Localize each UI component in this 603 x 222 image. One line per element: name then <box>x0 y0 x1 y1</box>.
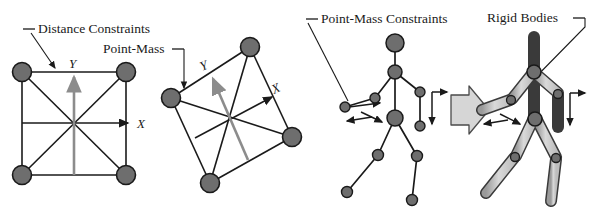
point-mass-node-knee <box>412 151 423 162</box>
motion-arrow <box>347 117 372 121</box>
constraint-edge <box>171 98 210 183</box>
bone-left-shin <box>347 155 378 192</box>
bone-right-shin <box>412 156 417 200</box>
skeleton-bones <box>345 43 420 200</box>
joint-shoulder <box>527 65 541 79</box>
point-mass-node <box>201 174 220 193</box>
point-mass-constraints-leader <box>306 19 348 101</box>
constraint-edge <box>250 47 292 137</box>
point-mass-nodes-panel2 <box>162 38 302 193</box>
motion-arrows-left <box>347 103 382 122</box>
joint-right-knee <box>552 154 561 163</box>
joint-left-knee <box>511 153 520 162</box>
motion-arrow <box>500 114 520 124</box>
point-mass-node-hand <box>340 102 350 112</box>
x-axis-label-panel2: X <box>268 79 283 97</box>
panel-square-rotated: X Y <box>162 38 302 193</box>
point-mass-leader <box>172 49 184 88</box>
x-axis-label-panel1: X <box>136 116 146 131</box>
point-mass-node <box>13 166 32 185</box>
constraint-diagonal <box>171 98 292 137</box>
point-mass-node <box>283 128 302 147</box>
motion-arrow <box>361 112 382 122</box>
label-point-mass-constraints: Point-Mass Constraints <box>321 11 447 26</box>
joint-hip <box>528 112 542 126</box>
point-mass-node-knee <box>373 150 384 161</box>
point-mass-node <box>117 63 136 82</box>
point-mass-node-elbow <box>415 87 425 97</box>
point-mass-node-elbow <box>370 93 380 103</box>
y-axis-arrow-rotated <box>213 79 248 160</box>
point-mass-node <box>117 166 136 185</box>
figure-root: X Y <box>0 0 603 222</box>
y-axis-label-panel2: Y <box>198 57 212 74</box>
diagram-canvas: X Y <box>0 0 603 222</box>
point-mass-node <box>241 38 260 57</box>
motion-arrow <box>484 120 508 124</box>
point-mass-node-hand <box>415 121 425 131</box>
panel-skeleton-rigid <box>482 18 585 201</box>
motion-arrows-left-rigid <box>484 114 520 124</box>
local-frame-axes-panel2 <box>195 79 272 160</box>
point-mass-node-neck <box>388 65 402 79</box>
point-mass-node <box>13 63 32 82</box>
constraint-diagonal <box>210 47 250 183</box>
joint-left-elbow <box>507 96 516 105</box>
label-rigid-bodies: Rigid Bodies <box>487 10 558 25</box>
label-point-mass: Point-Mass <box>103 41 165 56</box>
distance-constraint-edges-rotated <box>171 47 292 183</box>
point-mass-node-foot <box>407 195 418 206</box>
point-mass-node-head <box>386 34 404 52</box>
label-distance-constraints: Distance Constraints <box>38 21 150 36</box>
motion-arrows-right-rigid <box>570 93 585 125</box>
rigid-body-capsules <box>482 37 558 201</box>
point-mass-node <box>162 89 181 108</box>
y-axis-label-panel1: Y <box>69 56 78 71</box>
point-mass-node-hip <box>387 110 403 126</box>
joint-right-elbow <box>554 90 563 99</box>
constraint-edge <box>171 47 250 98</box>
panel-skeleton-pointmass <box>306 19 447 206</box>
motion-arrows-right <box>432 92 447 124</box>
point-mass-node-foot <box>342 187 353 198</box>
